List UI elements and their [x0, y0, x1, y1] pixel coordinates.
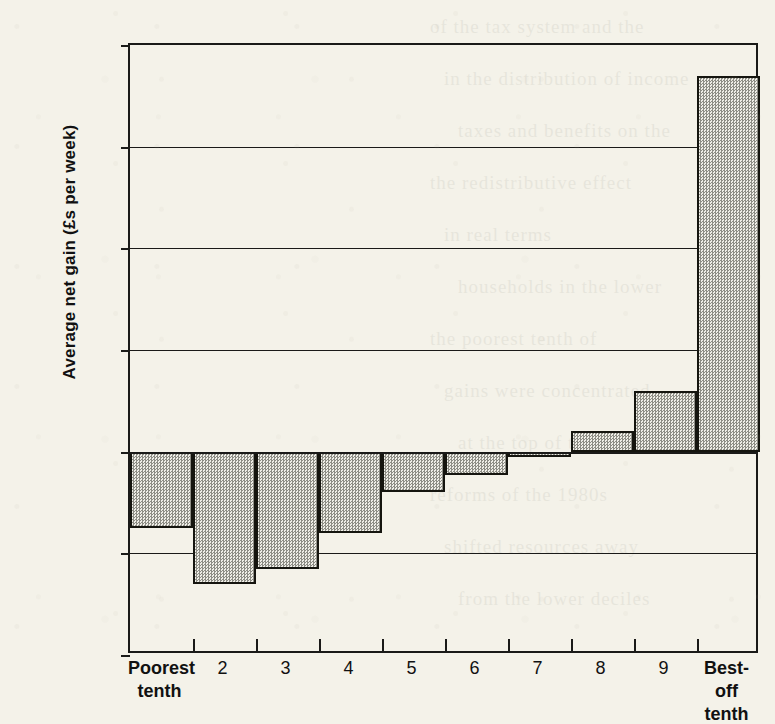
x-tick-label-9: 9 — [632, 657, 695, 680]
x-tick-label-line1: 5 — [406, 658, 416, 678]
gridline-30 — [130, 147, 756, 148]
bar-1 — [130, 452, 193, 528]
y-tick-mark--10 — [121, 553, 130, 555]
bar-5 — [382, 452, 445, 493]
y-tick-mark--20 — [121, 655, 130, 657]
y-tick-mark-40 — [121, 45, 130, 47]
x-tick-mark-6 — [508, 639, 510, 652]
x-tick-label-5: 5 — [380, 657, 443, 680]
x-tick-label-6: 6 — [443, 657, 506, 680]
x-tick-label-line1: 8 — [595, 658, 605, 678]
bar-2 — [193, 452, 256, 584]
x-tick-label-line1: Poorest — [128, 658, 195, 678]
x-tick-mark-7 — [571, 639, 573, 652]
x-tick-mark-8 — [634, 639, 636, 652]
y-tick-mark-0 — [121, 452, 130, 454]
x-tick-label-line1: 6 — [469, 658, 479, 678]
x-tick-label-line1: 2 — [217, 658, 227, 678]
x-tick-label-line1: 3 — [280, 658, 290, 678]
y-axis-title: Average net gain (£s per week) — [48, 42, 92, 462]
bar-chart-figure: Average net gain (£s per week) 403020100… — [40, 16, 735, 692]
bar-3 — [256, 452, 319, 569]
bar-8 — [571, 431, 634, 451]
x-tick-label-3: 3 — [254, 657, 317, 680]
x-tick-label-1: Pooresttenth — [128, 657, 191, 703]
x-tick-label-line1: 4 — [343, 658, 353, 678]
gridline-10 — [130, 350, 756, 351]
x-tick-label-line1: Best-off — [704, 658, 749, 701]
x-tick-label-2: 2 — [191, 657, 254, 680]
x-tick-label-4: 4 — [317, 657, 380, 680]
y-tick-mark-30 — [121, 147, 130, 149]
gridline-20 — [130, 248, 756, 249]
bar-6 — [445, 452, 508, 475]
bar-10 — [697, 76, 760, 452]
bar-9 — [634, 391, 697, 452]
plot-area — [128, 43, 758, 653]
x-tick-label-7: 7 — [506, 657, 569, 680]
x-tick-mark-3 — [319, 639, 321, 652]
x-axis-tick-labels: Pooresttenth23456789Best-offtenth — [128, 657, 758, 721]
x-tick-label-line1: 9 — [658, 658, 668, 678]
x-tick-mark-4 — [382, 639, 384, 652]
x-tick-mark-9 — [697, 639, 699, 652]
x-tick-mark-2 — [256, 639, 258, 652]
x-tick-label-line2: tenth — [128, 680, 191, 703]
x-tick-label-line1: 7 — [532, 658, 542, 678]
x-tick-label-line2: tenth — [695, 703, 758, 724]
zero-baseline — [130, 452, 756, 454]
x-tick-label-8: 8 — [569, 657, 632, 680]
bar-4 — [319, 452, 382, 533]
x-tick-label-10: Best-offtenth — [695, 657, 758, 724]
y-tick-mark-10 — [121, 350, 130, 352]
y-tick-mark-20 — [121, 248, 130, 250]
x-tick-mark-5 — [445, 639, 447, 652]
x-tick-mark-1 — [193, 639, 195, 652]
